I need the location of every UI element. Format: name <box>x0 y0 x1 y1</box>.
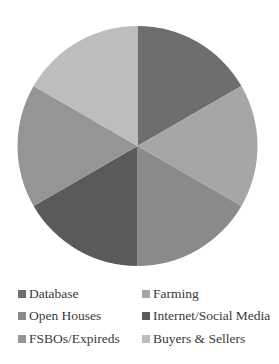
legend-swatch-icon <box>18 335 26 343</box>
legend-swatch-icon <box>18 312 26 320</box>
legend-item-fsbos-expireds: FSBOs/Expireds <box>18 331 120 347</box>
legend-swatch-icon <box>142 335 150 343</box>
legend-item-farming: Farming <box>142 286 199 302</box>
legend-swatch-icon <box>18 290 26 298</box>
legend-swatch-icon <box>142 290 150 298</box>
legend-label: Buyers & Sellers <box>153 331 245 347</box>
legend-item-buyers-sellers: Buyers & Sellers <box>142 331 245 347</box>
legend-label: FSBOs/Expireds <box>29 331 120 347</box>
legend-label: Open Houses <box>29 308 101 324</box>
legend-swatch-icon <box>142 312 150 320</box>
legend-item-internet-social-media: Internet/Social Media <box>142 308 270 324</box>
legend-label: Database <box>29 286 78 302</box>
legend-item-database: Database <box>18 286 78 302</box>
legend-label: Farming <box>153 286 199 302</box>
chart-legend: Database Farming Open Houses Internet/So… <box>0 0 279 364</box>
legend-item-open-houses: Open Houses <box>18 308 101 324</box>
legend-label: Internet/Social Media <box>153 308 270 324</box>
